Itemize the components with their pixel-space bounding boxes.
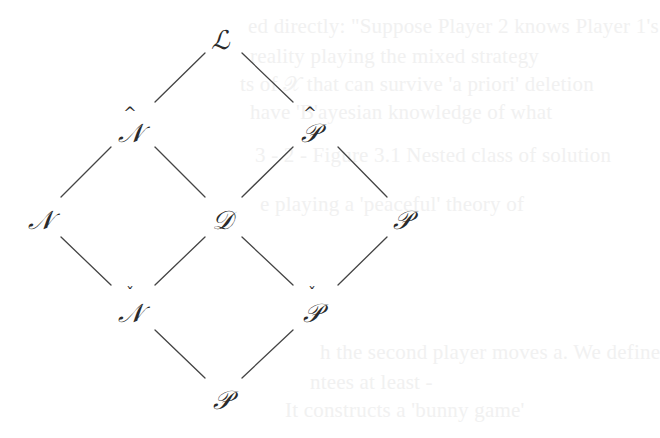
edge-phat-pright	[338, 147, 387, 197]
hat-accent: ^	[303, 106, 316, 122]
edge-nhat-n	[61, 147, 111, 197]
node-p-bottom: 𝒫	[213, 387, 232, 413]
node-l: ℒ	[211, 27, 230, 53]
node-p-check: 𝒫 ˇ	[303, 300, 322, 326]
node-n: 𝒩	[28, 207, 53, 233]
edge-d-pcheck	[242, 237, 293, 285]
check-accent: ˇ	[308, 286, 316, 302]
hat-accent: ^	[123, 106, 136, 122]
node-p-right: 𝒫	[393, 207, 412, 233]
check-accent: ˇ	[126, 286, 134, 302]
edge-phat-d	[242, 147, 293, 197]
node-label: 𝒩	[28, 207, 53, 233]
node-label: 𝒟	[212, 207, 233, 233]
edge-l-nhat	[155, 53, 205, 102]
node-p-hat: 𝒫 ^	[301, 120, 320, 146]
edge-ncheck-pbottom	[155, 330, 205, 378]
node-label: ℒ	[211, 27, 230, 53]
node-n-hat: 𝒩 ^	[118, 120, 143, 146]
node-label: 𝒫	[393, 207, 412, 233]
edge-l-phat	[242, 53, 293, 102]
edge-n-ncheck	[61, 237, 111, 285]
node-d: 𝒟	[212, 207, 233, 233]
edge-nhat-d	[155, 147, 205, 197]
node-n-check: 𝒩 ˇ	[118, 300, 143, 326]
edge-pright-pcheck	[338, 237, 387, 285]
edge-pcheck-pbottom	[242, 330, 293, 378]
node-label: 𝒫	[213, 387, 232, 413]
edge-d-ncheck	[155, 237, 205, 285]
